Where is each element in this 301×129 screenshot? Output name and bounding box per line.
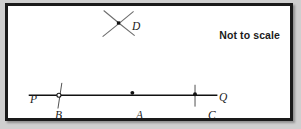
point-marker-B [57, 93, 61, 97]
point-marker-D [117, 21, 120, 24]
point-label-B: B [55, 110, 62, 122]
point-label-Q: Q [219, 92, 227, 104]
screenshot-root: Not to scale P B A C Q D [0, 0, 301, 129]
point-marker-C [193, 92, 197, 96]
diagram-frame: Not to scale P B A C Q D [5, 3, 293, 121]
point-label-C: C [208, 110, 216, 122]
point-label-A: A [136, 110, 143, 122]
point-label-D: D [132, 21, 140, 33]
not-to-scale-note: Not to scale [219, 29, 280, 41]
point-label-P: P [30, 94, 37, 106]
point-marker-A [130, 91, 134, 95]
diagram-canvas [8, 6, 290, 118]
